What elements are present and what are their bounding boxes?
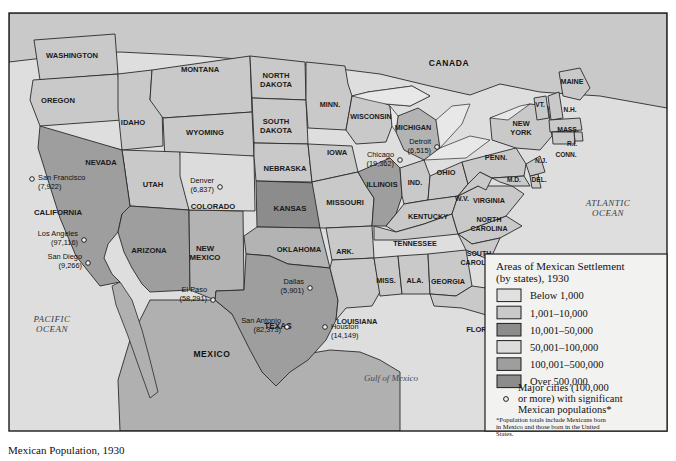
city-marker-san-diego <box>86 261 91 266</box>
state-minnesota <box>306 62 352 130</box>
city-population-denver: (6,837) <box>191 185 214 194</box>
state-label-mi: MICHIGAN <box>395 123 431 132</box>
city-marker-san-antonio <box>285 325 290 330</box>
legend-city-marker-icon <box>504 397 509 402</box>
legend-note-line1: *Population totals include Mexicans born <box>496 416 607 423</box>
state-label-mn: MINN. <box>320 100 340 109</box>
state-label-sd: SOUTHDAKOTA <box>260 117 292 136</box>
legend-label-1: 1,001–10,000 <box>530 308 588 319</box>
state-label-ks: KANSAS <box>274 204 307 213</box>
state-label-ok: OKLAHOMA <box>277 245 322 254</box>
state-label-in: IND. <box>408 178 422 187</box>
city-marker-san-francisco <box>30 177 35 182</box>
legend-swatch-4 <box>497 358 521 371</box>
state-label-ia: IOWA <box>327 148 348 157</box>
state-label-ky: KENTUCKY <box>408 212 448 221</box>
city-population-san-diego: (9,266) <box>59 261 82 270</box>
city-population-san-francisco: (7,922) <box>38 182 61 191</box>
legend-note-line2: in Mexico and those born in the United <box>496 423 600 430</box>
state-label-ga: GEORGIA <box>431 277 465 286</box>
city-marker-los-angeles <box>82 238 87 243</box>
legend-swatch-3 <box>497 341 521 354</box>
state-label-az: ARIZONA <box>131 246 167 255</box>
figure-caption: Mexican Population, 1930 <box>8 444 124 456</box>
legend-city-key-line3: Mexican populations* <box>518 404 612 415</box>
legend-note-line3: States. <box>496 430 514 437</box>
state-label-mt: MONTANA <box>181 65 220 74</box>
legend-swatch-1 <box>497 306 521 319</box>
state-alabama <box>398 254 430 294</box>
legend-label-4: 100,001–500,000 <box>530 359 604 370</box>
state-label-wi: WISCONSIN <box>350 112 392 121</box>
ocean-label-pacific-ocean: PACIFICOCEAN <box>33 314 71 334</box>
state-label-nv: NEVADA <box>85 158 117 167</box>
legend: Areas of Mexican Settlement (by states),… <box>485 254 667 437</box>
legend-label-3: 50,001–100,000 <box>530 342 598 353</box>
legend-title-line1: Areas of Mexican Settlement <box>496 260 625 272</box>
state-label-de: DEL. <box>531 176 546 183</box>
city-marker-el-paso <box>211 298 216 303</box>
state-label-wa: WASHINGTON <box>46 51 98 60</box>
state-label-vt: VT. <box>535 101 545 108</box>
state-label-md: M.D. <box>507 176 521 183</box>
city-marker-houston <box>323 325 328 330</box>
state-label-al: ALA. <box>407 276 424 285</box>
state-label-il: ILLINOIS <box>366 180 397 189</box>
state-label-ut: UTAH <box>143 180 164 189</box>
legend-swatch-2 <box>497 323 521 336</box>
city-marker-dallas <box>308 286 313 291</box>
city-marker-chicago <box>398 158 403 163</box>
state-label-nd: NORTHDAKOTA <box>260 71 292 90</box>
state-label-ma: MASS. <box>557 126 579 133</box>
country-label-canada: CANADA <box>429 58 469 68</box>
legend-label-0: Below 1,000 <box>530 290 584 301</box>
state-label-pa: PENN. <box>485 153 508 162</box>
state-label-ri: R.I. <box>567 140 577 147</box>
city-population-houston: (14,149) <box>331 331 359 340</box>
state-label-or: OREGON <box>41 96 75 105</box>
state-label-wv: W.V. <box>455 195 469 202</box>
state-label-nh: N.H. <box>563 106 576 113</box>
city-population-chicago: (19,362) <box>366 159 394 168</box>
state-label-ca: CALIFORNIA <box>34 208 82 217</box>
city-population-el-paso: (58,291) <box>179 294 207 303</box>
state-label-id: IDAHO <box>121 118 146 127</box>
state-nebraska <box>254 143 312 182</box>
ocean-label-gulf-of-mexico: Gulf of Mexico <box>364 373 418 383</box>
state-label-wy: WYOMING <box>186 128 224 137</box>
state-label-ct: CONN. <box>555 151 576 158</box>
city-population-los-angeles: (97,116) <box>51 238 78 247</box>
city-population-san-antonio: (82,373) <box>253 325 281 334</box>
city-population-dallas: (5,901) <box>281 286 304 295</box>
map-svg: WASHINGTONOREGONIDAHOMONTANAWYOMINGNEVAD… <box>0 0 676 461</box>
legend-title-line2: (by states), 1930 <box>496 272 570 285</box>
state-label-mo: MISSOURI <box>326 198 364 207</box>
map-figure: WASHINGTONOREGONIDAHOMONTANAWYOMINGNEVAD… <box>0 0 676 461</box>
state-vermont <box>534 96 549 120</box>
state-georgia <box>428 250 472 296</box>
state-label-ny: NEWYORK <box>510 118 532 137</box>
city-marker-detroit <box>435 145 440 150</box>
state-label-tn: TENNESSEE <box>393 239 437 248</box>
ocean-label-atlantic-ocean: ATLANTICOCEAN <box>585 198 631 218</box>
legend-label-2: 10,001–50,000 <box>530 325 593 336</box>
legend-swatch-0 <box>497 289 521 302</box>
state-label-co: COLORADO <box>191 202 235 211</box>
state-label-nj: N.J. <box>535 157 547 164</box>
state-label-oh: OHIO <box>437 168 456 177</box>
state-label-ar: ARK. <box>336 247 354 256</box>
city-population-detroit: (6,515) <box>408 146 431 155</box>
state-label-ms: MISS. <box>376 276 396 285</box>
city-marker-denver <box>218 185 223 190</box>
state-label-ne: NEBRASKA <box>263 164 307 173</box>
country-label-mexico: MEXICO <box>193 349 230 359</box>
state-label-va: VIRGINIA <box>473 196 505 205</box>
state-label-me: MAINE <box>560 77 583 86</box>
